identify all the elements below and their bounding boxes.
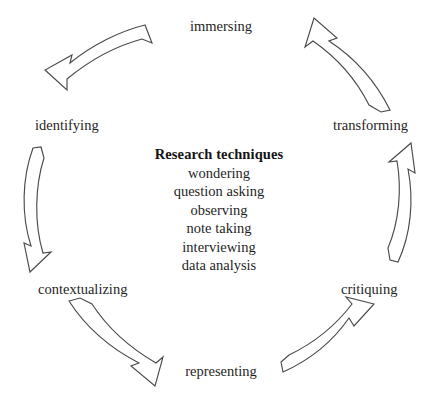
technique-item: interviewing <box>119 238 319 257</box>
stage-label-transforming: transforming <box>333 118 408 134</box>
technique-item: note taking <box>119 219 319 238</box>
stage-label-immersing: immersing <box>0 19 442 35</box>
arrow-identifying-to-contextualizing <box>24 147 51 272</box>
technique-item: wondering <box>119 164 319 183</box>
stage-label-contextualizing: contextualizing <box>38 282 127 298</box>
research-cycle-diagram: immersing transforming critiquing repres… <box>0 0 442 406</box>
research-techniques-title: Research techniques <box>119 145 319 164</box>
arrow-representing-to-critiquing <box>281 297 374 372</box>
stage-label-identifying: identifying <box>35 118 99 134</box>
stage-label-critiquing: critiquing <box>341 282 397 298</box>
technique-item: question asking <box>119 182 319 201</box>
technique-item: observing <box>119 201 319 220</box>
stage-label-representing: representing <box>0 364 442 380</box>
research-techniques-block: Research techniques wondering question a… <box>119 145 319 275</box>
technique-item: data analysis <box>119 256 319 275</box>
arrow-critiquing-to-transforming <box>388 143 415 262</box>
